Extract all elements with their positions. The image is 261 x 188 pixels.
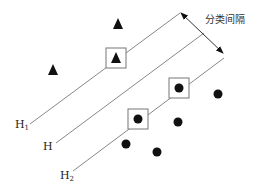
h2-main: H — [60, 169, 70, 182]
h2-subscript: 2 — [70, 175, 74, 183]
hyperplane-label-h1: H1 — [15, 119, 29, 132]
h-main: H — [43, 140, 53, 153]
hyperplane-label-h2: H2 — [60, 170, 74, 183]
circle-point — [175, 84, 184, 93]
margin-label: 分类间隔 — [205, 15, 245, 25]
circle-point — [134, 115, 143, 124]
hyperplane-label-h: H — [43, 141, 53, 152]
h1-main: H — [15, 118, 25, 131]
circle-point — [122, 140, 131, 149]
h1-subscript: 1 — [25, 124, 29, 132]
circle-point — [174, 118, 183, 127]
triangle-point — [113, 18, 123, 29]
triangle-point — [48, 64, 58, 75]
circle-point — [214, 90, 223, 99]
circle-point — [153, 148, 162, 157]
svm-diagram — [0, 0, 261, 188]
